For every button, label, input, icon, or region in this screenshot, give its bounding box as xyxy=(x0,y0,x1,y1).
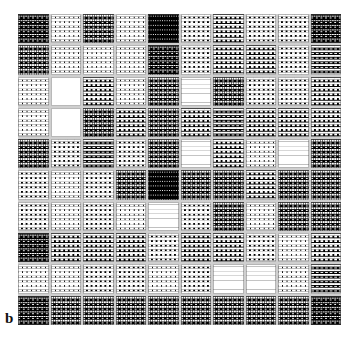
matrix-cell xyxy=(246,45,277,74)
halftone-pattern-offset xyxy=(83,170,114,199)
matrix-cell xyxy=(51,77,82,106)
halftone-pattern-offset xyxy=(311,77,342,106)
matrix-cell xyxy=(18,233,49,262)
matrix-cell xyxy=(18,108,49,137)
halftone-pattern-offset xyxy=(83,45,114,74)
halftone-pattern-offset xyxy=(246,77,277,106)
halftone-pattern-offset xyxy=(148,233,179,262)
halftone-pattern-offset xyxy=(246,139,277,168)
matrix-cell xyxy=(18,264,49,293)
halftone-pattern-offset xyxy=(181,108,212,137)
matrix-cell xyxy=(246,264,277,293)
halftone-pattern-offset xyxy=(83,108,114,137)
matrix-cell xyxy=(311,264,342,293)
matrix-cell xyxy=(148,296,179,325)
matrix-cell xyxy=(181,139,212,168)
matrix-cell xyxy=(148,139,179,168)
matrix-cell xyxy=(83,296,114,325)
matrix-cell xyxy=(116,45,147,74)
matrix-cell xyxy=(83,14,114,43)
matrix-cell xyxy=(51,264,82,293)
matrix-cell xyxy=(278,139,309,168)
matrix-cell xyxy=(246,108,277,137)
halftone-pattern-offset xyxy=(148,108,179,137)
matrix-cell xyxy=(83,170,114,199)
halftone-pattern-offset xyxy=(18,45,49,74)
matrix-cell xyxy=(311,233,342,262)
halftone-pattern-offset xyxy=(278,202,309,231)
matrix-cell xyxy=(51,45,82,74)
matrix-cell xyxy=(181,45,212,74)
matrix-cell xyxy=(18,45,49,74)
matrix-cell xyxy=(83,233,114,262)
halftone-pattern-offset xyxy=(181,170,212,199)
halftone-pattern-offset xyxy=(311,14,342,43)
halftone-pattern-offset xyxy=(116,14,147,43)
halftone-pattern-offset xyxy=(246,14,277,43)
halftone-pattern-offset xyxy=(83,202,114,231)
halftone-pattern-offset xyxy=(278,108,309,137)
halftone-pattern-offset xyxy=(116,45,147,74)
halftone-pattern-offset xyxy=(278,77,309,106)
halftone-pattern-offset xyxy=(18,233,49,262)
halftone-pattern-offset xyxy=(148,14,179,43)
halftone-pattern-offset xyxy=(311,202,342,231)
halftone-pattern-offset xyxy=(181,202,212,231)
halftone-pattern-offset xyxy=(181,233,212,262)
halftone-pattern-offset xyxy=(116,170,147,199)
halftone-pattern-offset xyxy=(18,108,49,137)
figure-panel: b xyxy=(0,0,352,340)
halftone-pattern-offset xyxy=(278,139,309,168)
halftone-pattern-offset xyxy=(246,170,277,199)
halftone-pattern-offset xyxy=(116,139,147,168)
matrix-cell xyxy=(181,170,212,199)
halftone-pattern-offset xyxy=(51,45,82,74)
halftone-pattern-offset xyxy=(278,14,309,43)
halftone-pattern-offset xyxy=(311,108,342,137)
matrix-cell xyxy=(148,108,179,137)
cell-border xyxy=(51,77,82,106)
halftone-pattern-offset xyxy=(51,139,82,168)
matrix-cell xyxy=(83,202,114,231)
matrix-cell xyxy=(148,264,179,293)
matrix-cell xyxy=(116,296,147,325)
matrix-cell xyxy=(116,77,147,106)
halftone-pattern-offset xyxy=(51,170,82,199)
matrix-cell xyxy=(311,202,342,231)
halftone-pattern-offset xyxy=(116,202,147,231)
halftone-pattern-offset xyxy=(311,264,342,293)
matrix-cell xyxy=(51,233,82,262)
halftone-pattern-offset xyxy=(246,264,277,293)
matrix-cell xyxy=(213,296,244,325)
halftone-pattern-offset xyxy=(83,233,114,262)
matrix-cell xyxy=(83,77,114,106)
matrix-cell xyxy=(213,139,244,168)
matrix-cell xyxy=(311,77,342,106)
matrix-cell xyxy=(148,170,179,199)
halftone-pattern-offset xyxy=(148,296,179,325)
halftone-pattern-offset xyxy=(213,139,244,168)
matrix-cell xyxy=(51,14,82,43)
matrix-cell xyxy=(181,233,212,262)
matrix-cell xyxy=(278,233,309,262)
matrix-cell xyxy=(213,45,244,74)
matrix-cell xyxy=(116,202,147,231)
halftone-pattern-offset xyxy=(83,296,114,325)
halftone-pattern-offset xyxy=(51,202,82,231)
matrix-cell xyxy=(148,45,179,74)
halftone-pattern-offset xyxy=(213,108,244,137)
matrix-cell xyxy=(278,77,309,106)
panel-label-b: b xyxy=(5,309,19,327)
halftone-pattern-offset xyxy=(116,296,147,325)
halftone-pattern-offset xyxy=(181,77,212,106)
matrix-cell xyxy=(213,108,244,137)
matrix-cell xyxy=(148,14,179,43)
matrix-cell xyxy=(278,14,309,43)
matrix-cell xyxy=(18,14,49,43)
halftone-pattern-offset xyxy=(116,77,147,106)
halftone-pattern-offset xyxy=(181,139,212,168)
halftone-pattern-offset xyxy=(311,296,342,325)
matrix-cell xyxy=(311,139,342,168)
halftone-pattern-offset xyxy=(148,170,179,199)
matrix-cell xyxy=(51,202,82,231)
